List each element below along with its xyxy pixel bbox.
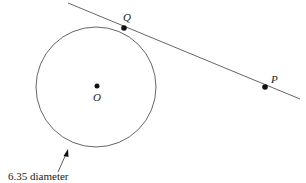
label-p: P [270,73,278,85]
point-q [121,25,127,31]
diameter-caption: 6.35 diameter [8,170,69,182]
label-q: Q [123,11,131,23]
point-o [95,84,100,89]
arrowhead-icon [64,149,69,157]
point-p [262,84,268,90]
geometry-diagram: Q P O 6.35 diameter [0,0,306,183]
label-o: O [93,91,101,103]
